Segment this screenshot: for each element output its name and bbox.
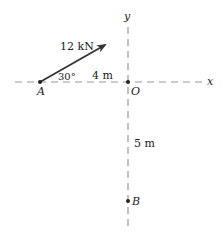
point-b-dot	[126, 199, 130, 203]
point-b-label: B	[131, 195, 140, 208]
point-a-label: A	[36, 85, 45, 98]
angle-label: 30°	[58, 71, 76, 82]
force-diagram: x y 12 kN 30° 4 m 5 m A O B	[0, 0, 223, 232]
force-label: 12 kN	[60, 40, 94, 53]
y-axis-label: y	[123, 10, 131, 23]
point-a-dot	[38, 80, 42, 84]
x-axis-label: x	[207, 75, 214, 88]
vertical-distance-label: 5 m	[134, 137, 155, 150]
horizontal-distance-label: 4 m	[92, 69, 113, 82]
point-o-label: O	[131, 85, 140, 98]
point-o-dot	[126, 80, 130, 84]
